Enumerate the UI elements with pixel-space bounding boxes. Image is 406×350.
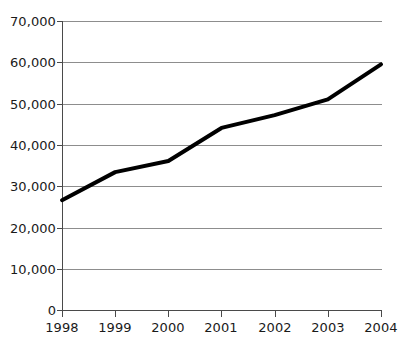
y-tick-10000: [57, 269, 62, 270]
y-axis-label-20000: 20,000: [10, 222, 56, 235]
gridline-50000: [62, 104, 382, 105]
y-tick-50000: [57, 104, 62, 105]
y-axis-label-60000: 60,000: [10, 56, 56, 69]
y-axis-label-40000: 40,000: [10, 139, 56, 152]
y-axis-label-0: 0: [48, 304, 56, 317]
line-chart: 70,000 60,000 50,000 40,000 30,000 20,00…: [0, 0, 406, 350]
x-axis-label-1998: 1998: [37, 321, 87, 335]
plot-area: [62, 21, 382, 310]
gridline-60000: [62, 62, 382, 63]
gridline-70000: [62, 21, 382, 22]
gridline-30000: [62, 186, 382, 187]
y-tick-40000: [57, 145, 62, 146]
x-tick-2004: [381, 311, 382, 317]
y-axis-label-50000: 50,000: [10, 98, 56, 111]
x-tick-2001: [221, 311, 222, 317]
x-axis-label-2000: 2000: [143, 321, 193, 335]
y-axis-label-30000: 30,000: [10, 180, 56, 193]
x-axis-label-2004: 2004: [356, 321, 406, 335]
y-tick-60000: [57, 62, 62, 63]
x-axis-label-1999: 1999: [90, 321, 140, 335]
x-axis-label-2001: 2001: [196, 321, 246, 335]
y-tick-30000: [57, 186, 62, 187]
x-axis-label-2003: 2003: [303, 321, 353, 335]
y-axis-label-10000: 10,000: [10, 263, 56, 276]
x-tick-2002: [275, 311, 276, 317]
x-tick-2003: [328, 311, 329, 317]
y-axis-line: [62, 21, 63, 311]
y-axis-labels: 70,000 60,000 50,000 40,000 30,000 20,00…: [0, 0, 56, 350]
gridline-20000: [62, 228, 382, 229]
gridline-40000: [62, 145, 382, 146]
x-axis-label-2002: 2002: [250, 321, 300, 335]
x-tick-1998: [62, 311, 63, 317]
x-tick-2000: [168, 311, 169, 317]
y-tick-20000: [57, 228, 62, 229]
y-tick-70000: [57, 21, 62, 22]
x-tick-1999: [115, 311, 116, 317]
y-axis-label-70000: 70,000: [10, 15, 56, 28]
gridline-10000: [62, 269, 382, 270]
gridline-0-baseline: [62, 310, 382, 311]
